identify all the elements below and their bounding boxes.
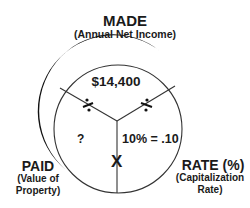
rate-value: 10% = .10 bbox=[122, 133, 179, 146]
paid-subtitle-line2: Property) bbox=[8, 185, 68, 197]
made-title: MADE bbox=[0, 13, 250, 28]
rate-subtitle-line2: Rate) bbox=[170, 184, 250, 196]
made-subtitle: (Annual Net Income) bbox=[0, 29, 250, 40]
multiply-icon: X bbox=[111, 153, 122, 170]
paid-title: PAID bbox=[8, 159, 68, 173]
rate-subtitle: (Capitalization Rate) bbox=[170, 172, 250, 195]
paid-subtitle: (Value of Property) bbox=[8, 173, 68, 196]
divider-line-right bbox=[117, 86, 175, 121]
rate-title: RATE (%) bbox=[177, 158, 249, 172]
paid-subtitle-line1: (Value of bbox=[8, 173, 68, 185]
income-capitalization-diagram: MADE (Annual Net Income) $14,400 ? 10% =… bbox=[0, 0, 250, 208]
paid-value: ? bbox=[77, 133, 84, 145]
rate-subtitle-line1: (Capitalization bbox=[170, 172, 250, 184]
divide-icon-left bbox=[83, 98, 93, 111]
made-value: $14,400 bbox=[90, 75, 142, 89]
crescent-shadow bbox=[38, 34, 161, 170]
